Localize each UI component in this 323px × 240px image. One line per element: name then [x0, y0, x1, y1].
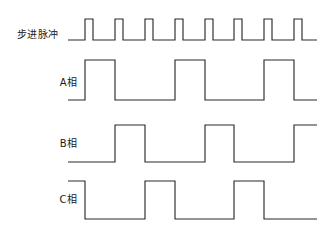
- row-label-phase-c: C相: [60, 191, 77, 206]
- row-label-phase-b: B相: [60, 135, 77, 150]
- waveform-step-pulse: [68, 19, 317, 40]
- timing-diagram-figure: 步进脉冲A相B相C相: [0, 0, 323, 240]
- row-label-step-pulse: 步进脉冲: [17, 26, 58, 41]
- row-label-phase-a: A相: [60, 74, 77, 89]
- waveform-phase-c: [68, 181, 317, 219]
- waveform-phase-b: [68, 125, 317, 162]
- waveform-phase-a: [68, 60, 317, 100]
